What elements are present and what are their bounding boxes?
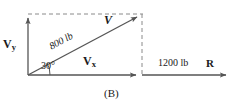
label-vy-subscript: y [12,42,16,52]
label-magnitude-1200lb: 1200 lb [158,58,188,68]
label-vx-subscript: x [92,59,96,69]
label-v-resultant: V [104,14,112,26]
label-vy: Vy [3,38,16,52]
label-angle-30deg: 30° [41,61,55,71]
label-vx-main: V [83,54,92,68]
vector-diagram-figure: Vy Vx V R 800 lb 1200 lb 30° (B) [0,0,237,107]
label-r-resultant: R [206,58,214,69]
label-vy-main: V [3,37,12,51]
label-vx: Vx [83,55,96,69]
figure-caption: (B) [104,88,119,99]
